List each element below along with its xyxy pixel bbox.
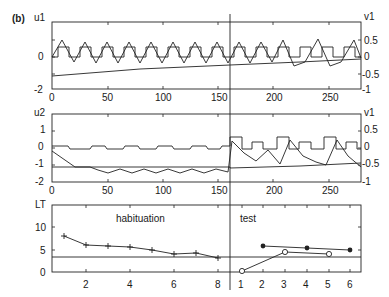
panel-bottom: LT 10 5 0 habituation test 2 4 6 8 1 2 3… xyxy=(35,199,361,290)
tick: 0.5 xyxy=(364,124,378,135)
tick: -2 xyxy=(34,84,43,95)
tick: 6 xyxy=(171,279,177,290)
tick: 50 xyxy=(102,92,114,103)
tick: 2 xyxy=(259,279,265,290)
tick: 250 xyxy=(322,185,339,196)
tick: 100 xyxy=(155,92,172,103)
tick: 150 xyxy=(211,185,228,196)
tick: 1 xyxy=(40,124,46,135)
tick: 50 xyxy=(102,185,114,196)
tick: -0.5 xyxy=(362,69,380,80)
tick: 200 xyxy=(266,185,283,196)
tick: 4 xyxy=(303,279,309,290)
panel-bottom-frame xyxy=(52,205,361,272)
habituation-line xyxy=(64,236,218,258)
panel-middle-ylabel-left: u2 xyxy=(34,107,46,118)
tick: 200 xyxy=(266,92,283,103)
tick: 250 xyxy=(322,92,339,103)
tick: -2 xyxy=(35,176,44,187)
tick: 0.5 xyxy=(364,35,378,46)
tick: 150 xyxy=(211,92,228,103)
tick: -1 xyxy=(362,84,371,95)
tick: 8 xyxy=(215,279,221,290)
circle-markers xyxy=(239,249,331,273)
tick: 0 xyxy=(40,267,46,278)
tick: 0 xyxy=(364,141,370,152)
tick: 0 xyxy=(49,92,55,103)
panel-bottom-ylabel-left: LT xyxy=(35,199,46,210)
tick: 5 xyxy=(40,245,46,256)
section-label-test: test xyxy=(240,213,256,224)
tick: 5 xyxy=(325,279,331,290)
tick: -1 xyxy=(35,158,44,169)
panel-top-ylabel-left: u1 xyxy=(34,12,46,23)
panel-middle-ylabel-right: v1 xyxy=(364,107,375,118)
tick: 6 xyxy=(347,279,353,290)
tick: 0 xyxy=(49,185,55,196)
section-label-habituation: habituation xyxy=(116,213,165,224)
tick: -1 xyxy=(362,176,371,187)
tick: 10 xyxy=(35,222,47,233)
tick: 0 xyxy=(38,51,44,62)
panel-middle: u2 v1 1 0 -1 -2 0.5 0 -0.5 -1 0 50 100 1… xyxy=(34,107,380,196)
tick: 2 xyxy=(83,279,89,290)
figure-label: (b) xyxy=(12,13,25,24)
figure-canvas: (b) u1 v1 0 -2 0.5 0 -0.5 -1 0 50 100 15… xyxy=(0,0,389,297)
panel-top-frame xyxy=(52,22,361,89)
tick: 3 xyxy=(281,279,287,290)
tick: 100 xyxy=(155,185,172,196)
panel-top: u1 v1 0 -2 0.5 0 -0.5 -1 0 50 100 150 20… xyxy=(34,11,380,103)
star-markers xyxy=(261,244,353,253)
panel-top-ylabel-right: v1 xyxy=(364,11,375,22)
tick: 4 xyxy=(127,279,133,290)
tick: 0 xyxy=(364,51,370,62)
tick: -0.5 xyxy=(362,158,380,169)
tick: 1 xyxy=(238,279,244,290)
tick: 0 xyxy=(38,141,44,152)
